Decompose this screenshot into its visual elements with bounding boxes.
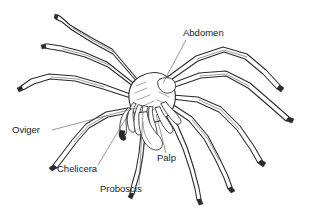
- sea-spider-anatomy-figure: Abdomen Oviger Chelicera Proboscis Palp: [0, 0, 317, 216]
- label-palp: Palp: [157, 152, 176, 163]
- label-proboscis: Proboscis: [100, 183, 142, 194]
- anatomy-drawing: Abdomen Oviger Chelicera Proboscis Palp: [0, 0, 317, 216]
- leg-left-lower: [49, 108, 129, 171]
- leg-right-upper-1: [166, 47, 284, 92]
- label-abdomen: Abdomen: [183, 27, 224, 38]
- label-chelicera: Chelicera: [57, 163, 98, 174]
- label-oviger: Oviger: [12, 124, 40, 135]
- leg-left-middle: [17, 74, 134, 99]
